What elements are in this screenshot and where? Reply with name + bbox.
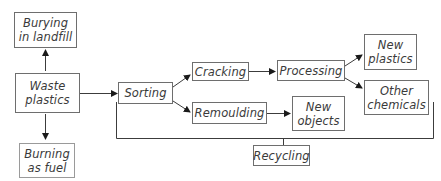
edge-sorting-remoulding xyxy=(173,101,190,112)
node-new-objects: New objects xyxy=(292,96,345,131)
node-recycling: Recycling xyxy=(253,145,310,166)
node-label: Processing xyxy=(280,64,343,78)
node-other-chemicals: Other chemicals xyxy=(364,80,429,115)
node-label: Sorting xyxy=(124,86,166,100)
node-new-plastics: New plastics xyxy=(364,34,417,70)
node-label: Other chemicals xyxy=(367,84,426,112)
node-label: Burying in landfill xyxy=(19,16,73,44)
node-remoulding: Remoulding xyxy=(192,102,267,124)
node-label: Burning as fuel xyxy=(24,147,70,175)
node-burning-as-fuel: Burning as fuel xyxy=(19,143,75,178)
edge-sorting-cracking xyxy=(173,75,190,87)
edge-processing-otherchemicals xyxy=(345,78,362,88)
node-label: New objects xyxy=(297,100,339,128)
node-label: Waste plastics xyxy=(25,79,69,107)
node-label: Remoulding xyxy=(195,106,265,120)
edge-processing-newplastics xyxy=(345,55,362,66)
node-cracking: Cracking xyxy=(192,62,249,81)
node-sorting: Sorting xyxy=(118,82,173,104)
node-label: Recycling xyxy=(253,149,309,163)
node-burying-in-landfill: Burying in landfill xyxy=(14,12,77,48)
node-waste-plastics: Waste plastics xyxy=(15,73,80,113)
node-label: New plastics xyxy=(368,38,412,66)
node-label: Cracking xyxy=(195,65,246,79)
node-processing: Processing xyxy=(277,60,345,81)
